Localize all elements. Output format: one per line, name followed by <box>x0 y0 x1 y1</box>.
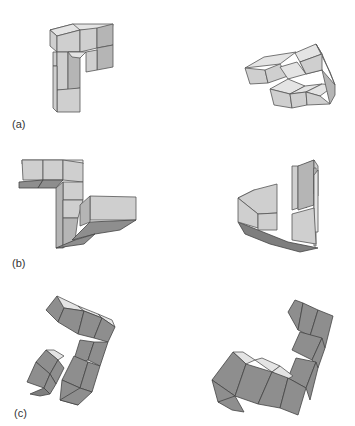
row-label-a: (a) <box>12 118 25 130</box>
row-label-b: (b) <box>12 257 25 269</box>
shape-a-left <box>50 24 113 112</box>
shape-b-right <box>238 160 318 252</box>
shape-a-right <box>245 44 335 108</box>
shape-c-right <box>212 300 333 415</box>
row-label-c: (c) <box>14 407 27 419</box>
shape-b-left <box>19 160 136 248</box>
shape-c-left <box>27 296 115 405</box>
mental-rotation-figure <box>0 0 355 426</box>
